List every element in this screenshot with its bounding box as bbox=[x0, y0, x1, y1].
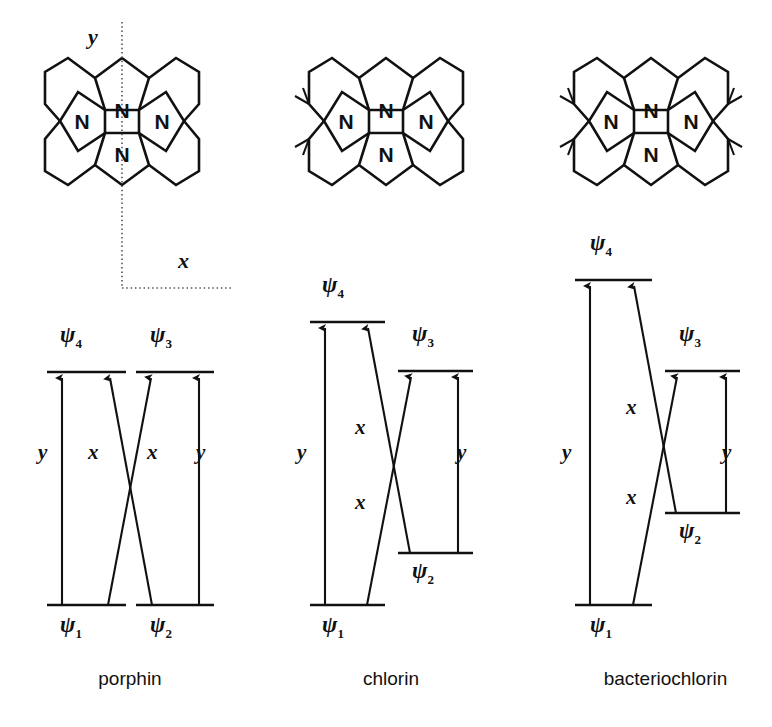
energy-diagram-bacteriochlorin bbox=[575, 280, 740, 605]
level-label-porphin-psi1: ψ1 bbox=[60, 612, 82, 642]
caption-porphin: porphin bbox=[55, 668, 205, 690]
energy-diagram-chlorin bbox=[310, 322, 473, 605]
polarization-label-bacteriochlorin-y-right: y bbox=[722, 440, 731, 465]
level-label-bacteriochlorin-psi4: ψ4 bbox=[590, 230, 612, 260]
nitrogen-atom-label: N bbox=[603, 110, 618, 133]
x-axis-label: x bbox=[178, 248, 189, 274]
level-label-bacteriochlorin-psi2: ψ2 bbox=[679, 518, 701, 548]
polarization-label-bacteriochlorin-x-lower: x bbox=[626, 485, 637, 510]
level-label-chlorin-psi4: ψ4 bbox=[322, 272, 344, 302]
nitrogen-atom-label: N bbox=[378, 143, 393, 166]
level-label-chlorin-psi2: ψ2 bbox=[412, 558, 434, 588]
y-axis-label: y bbox=[88, 24, 98, 50]
level-label-chlorin-psi3: ψ3 bbox=[412, 321, 434, 351]
polarization-label-bacteriochlorin-y-left: y bbox=[562, 440, 571, 465]
transition-arrow-psi2-psi4 bbox=[368, 328, 410, 553]
polarization-label-chlorin-y-left: y bbox=[297, 440, 306, 465]
molecule-porphin-axes bbox=[122, 22, 232, 288]
level-label-bacteriochlorin-psi1: ψ1 bbox=[590, 612, 612, 642]
polarization-label-porphin-y-left: y bbox=[38, 440, 47, 465]
caption-chlorin: chlorin bbox=[316, 668, 466, 690]
energy-diagram-porphin bbox=[47, 372, 214, 605]
diagram-svg: N N N N N N N N N N N N bbox=[0, 0, 772, 727]
nitrogen-atom-label: N bbox=[643, 99, 658, 122]
polarization-label-porphin-x-left: x bbox=[88, 440, 99, 465]
transition-arrow-psi1-psi3 bbox=[367, 377, 411, 605]
polarization-label-porphin-x-right: x bbox=[147, 440, 158, 465]
nitrogen-atom-label: N bbox=[74, 110, 89, 133]
figure-canvas: N N N N N N N N N N N N y x ψ4 ψ3 ψ1 ψ2 … bbox=[0, 0, 772, 727]
nitrogen-atom-label: N bbox=[114, 99, 129, 122]
level-label-porphin-psi4: ψ4 bbox=[60, 322, 82, 352]
nitrogen-atom-label: N bbox=[378, 99, 393, 122]
polarization-label-chlorin-y-right: y bbox=[457, 440, 466, 465]
transition-arrow-psi1-psi3 bbox=[633, 377, 677, 605]
nitrogen-atom-label: N bbox=[338, 110, 353, 133]
polarization-label-porphin-y-right: y bbox=[196, 440, 205, 465]
nitrogen-atom-label: N bbox=[643, 143, 658, 166]
level-label-bacteriochlorin-psi3: ψ3 bbox=[679, 321, 701, 351]
bacteriochlorin-methyls-right bbox=[728, 88, 742, 155]
level-label-porphin-psi2: ψ2 bbox=[150, 612, 172, 642]
nitrogen-atom-label: N bbox=[683, 110, 698, 133]
polarization-label-chlorin-x-lower: x bbox=[355, 490, 366, 515]
level-label-chlorin-psi1: ψ1 bbox=[322, 612, 344, 642]
transition-arrow-psi2-psi4 bbox=[110, 378, 152, 605]
nitrogen-atom-label: N bbox=[114, 143, 129, 166]
chlorin-methyls-left bbox=[295, 88, 309, 155]
polarization-label-bacteriochlorin-x-upper: x bbox=[626, 395, 637, 420]
nitrogen-atom-label: N bbox=[418, 110, 433, 133]
caption-bacteriochlorin: bacteriochlorin bbox=[578, 668, 753, 690]
bacteriochlorin-methyls-left bbox=[560, 88, 574, 155]
level-label-porphin-psi3: ψ3 bbox=[150, 322, 172, 352]
transition-arrow-psi2-psi4 bbox=[634, 286, 676, 513]
polarization-label-chlorin-x-upper: x bbox=[355, 415, 366, 440]
nitrogen-atom-label: N bbox=[154, 110, 169, 133]
transition-arrow-psi1-psi3 bbox=[108, 378, 151, 605]
